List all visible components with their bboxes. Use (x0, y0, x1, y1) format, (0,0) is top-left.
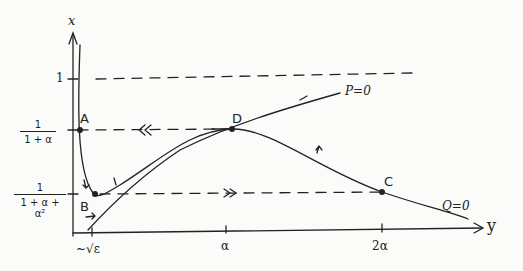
arrow-up-icon (316, 146, 322, 153)
point-c-label: C (384, 175, 393, 188)
tick-label-1-over-1-plus-alpha-plus-alpha-sq: 1 1 + α + α² (14, 182, 66, 219)
dashed-line-A (78, 129, 232, 130)
tick-label-2alpha: 2α (372, 240, 388, 252)
curve-label-p: P=0 (345, 85, 371, 97)
arrow-down-icon-2 (114, 178, 116, 185)
point-b (92, 191, 98, 197)
point-a-label: A (80, 112, 89, 125)
tick-label-1: 1 (56, 72, 64, 84)
point-d (229, 126, 235, 132)
y-axis-label: y (487, 218, 496, 234)
point-a (77, 127, 83, 133)
curve-label-q: Q=0 (442, 200, 470, 212)
point-d-label: D (232, 112, 242, 125)
y-axis (73, 228, 482, 233)
tick-label-sqrt-eps: ~√ε (76, 243, 100, 255)
dashed-line-B (100, 192, 386, 194)
curve-q-zero (79, 45, 468, 219)
x-axis-label: x (68, 14, 75, 27)
curve-p-zero (88, 93, 340, 230)
point-c (379, 189, 385, 195)
dashed-line-x1 (96, 73, 412, 79)
diagram-svg (0, 0, 523, 271)
phase-plane-diagram: x y 1 1 1 + α 1 1 + α + α² ~√ε α 2α A B … (0, 0, 523, 271)
tick-label-alpha: α (221, 240, 229, 252)
point-b-label: B (80, 200, 89, 213)
arrow-left-icon (300, 96, 307, 100)
tick-label-1-over-1-plus-alpha: 1 1 + α (20, 119, 56, 145)
